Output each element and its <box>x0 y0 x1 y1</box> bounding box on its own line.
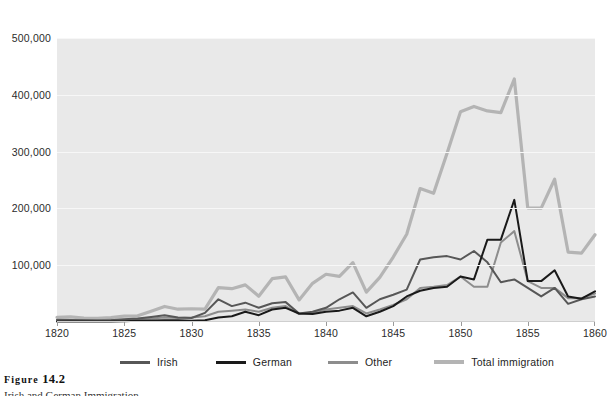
y-axis-tick-label: 500,000 <box>0 32 51 44</box>
x-axis-tick <box>124 322 125 326</box>
series-line-total-immigration <box>57 79 595 318</box>
x-axis: 182018251830183518401845185018551860 <box>57 322 595 348</box>
y-axis-tick-label: 300,000 <box>0 146 51 158</box>
gridline <box>57 95 595 96</box>
chart-legend: IrishGermanOtherTotal immigration <box>120 352 540 372</box>
x-axis-tick <box>192 322 193 326</box>
x-axis-tick <box>326 322 327 326</box>
caption-title: Figure 14.2 <box>4 372 604 387</box>
x-axis-tick <box>528 322 529 326</box>
caption-figure-number: 14.2 <box>42 372 65 386</box>
x-axis-tick-label: 1820 <box>45 327 69 339</box>
gridline <box>57 208 595 209</box>
x-axis-tick <box>393 322 394 326</box>
legend-item-irish[interactable]: Irish <box>120 356 178 368</box>
caption-figure-word: Figure <box>4 374 39 385</box>
y-axis-tick-label: 100,000 <box>0 259 51 271</box>
legend-swatch <box>434 360 464 364</box>
x-axis-tick-label: 1860 <box>583 327 607 339</box>
y-axis: 500,000400,000300,000200,000100,000 <box>0 38 51 322</box>
x-axis-tick-label: 1835 <box>247 327 271 339</box>
legend-label: Irish <box>157 356 178 368</box>
x-axis-tick-label: 1845 <box>381 327 405 339</box>
x-axis-tick-label: 1855 <box>516 327 540 339</box>
y-axis-tick-label: 200,000 <box>0 202 51 214</box>
legend-item-total-immigration[interactable]: Total immigration <box>434 356 554 368</box>
legend-swatch <box>120 361 150 364</box>
y-axis-tick-label: 400,000 <box>0 89 51 101</box>
x-axis-tick-label: 1825 <box>112 327 136 339</box>
x-axis-tick <box>594 322 595 326</box>
legend-swatch <box>328 361 358 364</box>
x-axis-tick-label: 1830 <box>179 327 203 339</box>
legend-item-german[interactable]: German <box>216 356 292 368</box>
x-axis-tick <box>461 322 462 326</box>
x-axis-tick-label: 1840 <box>314 327 338 339</box>
legend-item-other[interactable]: Other <box>328 356 392 368</box>
plot-area <box>57 38 595 322</box>
legend-label: Other <box>365 356 392 368</box>
x-axis-tick-label: 1850 <box>448 327 472 339</box>
chart-lines <box>57 38 595 322</box>
legend-swatch <box>216 361 246 364</box>
gridline <box>57 38 595 39</box>
gridline <box>57 152 595 153</box>
figure-caption: Figure 14.2 Irish and German Immigration <box>4 372 604 396</box>
series-line-german <box>57 200 595 322</box>
x-axis-tick <box>57 322 58 326</box>
gridline <box>57 265 595 266</box>
legend-label: Total immigration <box>471 356 554 368</box>
caption-subtitle: Irish and German Immigration <box>4 390 604 396</box>
x-axis-tick <box>259 322 260 326</box>
legend-label: German <box>253 356 292 368</box>
